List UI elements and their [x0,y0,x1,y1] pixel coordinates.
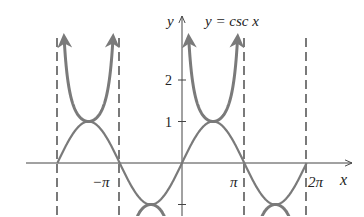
tick-label-pi: π [230,174,238,190]
csc-graph: y y = csc x 2 1 −π π 2π x [0,0,364,216]
csc-branch-3 [189,40,238,121]
y-axis-label: y [165,13,174,29]
csc-branch-1 [64,40,113,121]
tick-label-2pi: 2π [308,174,324,190]
csc-branch-4 [258,205,294,217]
x-axis-label: x [339,171,347,188]
curve-label: y = csc x [203,13,259,29]
tick-label-neg-pi: −π [92,174,110,190]
tick-label-1: 1 [165,115,172,130]
curve-label-text: y = csc x [203,13,259,29]
csc-branch-2 [133,205,169,217]
tick-label-2: 2 [165,73,172,88]
